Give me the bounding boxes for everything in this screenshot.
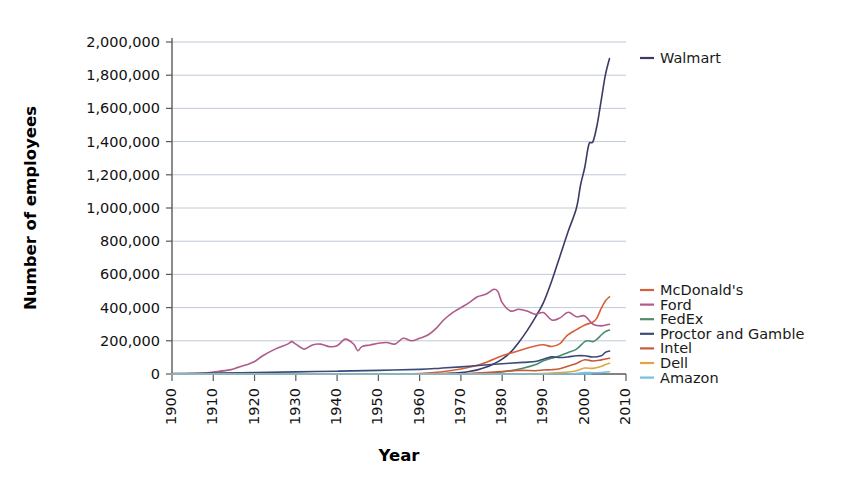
chart-figure: 0200,000400,000600,000800,0001,000,0001,… (0, 0, 846, 488)
x-tick-label: 1990 (534, 388, 550, 425)
employees-line-chart: 0200,000400,000600,000800,0001,000,0001,… (0, 0, 846, 488)
y-tick-label: 1,400,000 (86, 134, 160, 150)
series-line-walmart (172, 59, 609, 374)
legend-label-proctor-and-gamble: Proctor and Gamble (660, 326, 804, 342)
gridlines-group (172, 42, 626, 341)
legend-group: McDonald'sFordFedExProctor and GambleInt… (640, 50, 804, 386)
legend-label-amazon: Amazon (660, 370, 719, 386)
y-tick-label: 0 (151, 366, 160, 382)
y-tick-label: 1,600,000 (86, 100, 160, 116)
y-tick-label: 2,000,000 (86, 34, 160, 50)
y-tick-label: 1,200,000 (86, 167, 160, 183)
y-axis-title: Number of employees (21, 106, 40, 310)
x-tick-label: 1970 (452, 388, 468, 425)
legend-label-mcdonald-s: McDonald's (660, 282, 743, 298)
x-tick-label: 1950 (369, 388, 385, 425)
series-group (172, 59, 609, 374)
y-tick-label: 800,000 (100, 233, 160, 249)
legend-label-fedex: FedEx (660, 311, 704, 327)
legend-label-ford: Ford (660, 297, 692, 313)
x-tick-label: 1910 (204, 388, 220, 425)
y-axis-ticks-group: 0200,000400,000600,000800,0001,000,0001,… (86, 34, 172, 382)
y-tick-label: 200,000 (100, 333, 160, 349)
legend-label-dell: Dell (660, 355, 688, 371)
x-tick-label: 1920 (246, 388, 262, 425)
x-tick-label: 1900 (163, 388, 179, 425)
legend-label-intel: Intel (660, 340, 692, 356)
x-tick-label: 1960 (411, 388, 427, 425)
axis-titles-group: YearNumber of employees (21, 106, 420, 465)
y-tick-label: 1,800,000 (86, 67, 160, 83)
y-tick-label: 600,000 (100, 266, 160, 282)
series-line-mcdonald-s (172, 297, 609, 374)
x-tick-label: 2010 (617, 388, 633, 425)
x-tick-label: 2000 (576, 388, 592, 425)
x-tick-label: 1930 (287, 388, 303, 425)
legend-label-walmart: Walmart (660, 50, 721, 66)
y-tick-label: 1,000,000 (86, 200, 160, 216)
y-tick-label: 400,000 (100, 300, 160, 316)
x-axis-title: Year (378, 446, 421, 465)
x-axis-ticks-group: 1900191019201930194019501960197019801990… (163, 374, 633, 425)
x-tick-label: 1980 (493, 388, 509, 425)
axis-lines-group (172, 38, 626, 374)
x-tick-label: 1940 (328, 388, 344, 425)
